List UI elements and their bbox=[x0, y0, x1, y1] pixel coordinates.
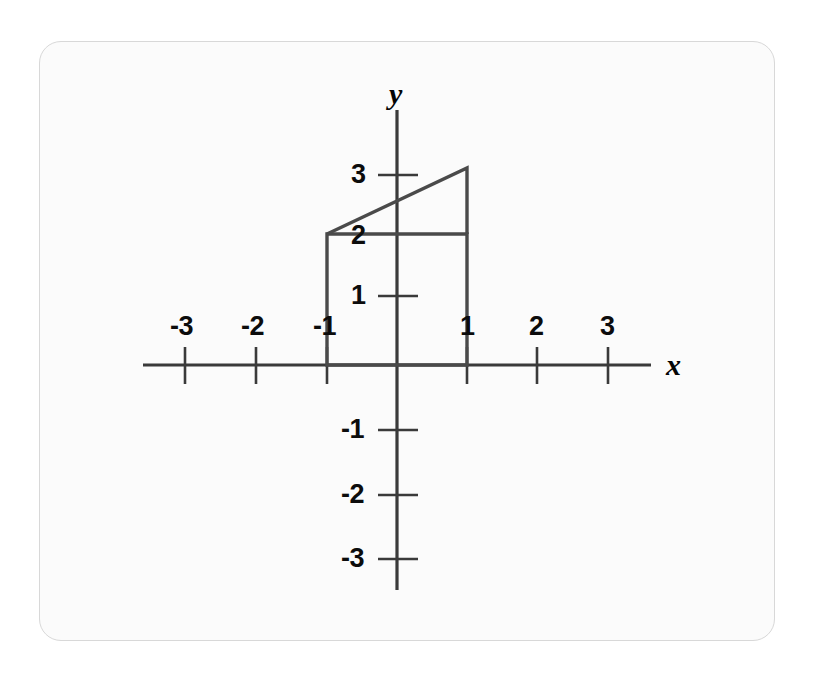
x-tick-label-minus3: -3 bbox=[170, 313, 193, 340]
x-tick-label-plus1: 1 bbox=[460, 313, 475, 340]
coordinate-plane bbox=[0, 0, 815, 683]
x-tick-label-plus3: 3 bbox=[600, 313, 615, 340]
x-tick-label-minus2: -2 bbox=[241, 313, 264, 340]
y-tick-label-minus3: -3 bbox=[341, 545, 364, 572]
x-axis-label: x bbox=[666, 350, 681, 380]
y-axis-label: y bbox=[389, 79, 402, 109]
y-tick-label-minus1: -1 bbox=[341, 416, 364, 443]
y-tick-label-plus2: 2 bbox=[351, 222, 366, 249]
y-tick-label-minus2: -2 bbox=[341, 481, 364, 508]
x-tick-label-minus1: -1 bbox=[313, 313, 336, 340]
x-tick-label-plus2: 2 bbox=[529, 313, 544, 340]
y-tick-label-plus3: 3 bbox=[351, 161, 366, 188]
y-tick-label-plus1: 1 bbox=[351, 282, 366, 309]
figure-page: -3 -2 -1 1 2 3 3 2 1 -1 -2 -3 y x bbox=[0, 0, 815, 683]
